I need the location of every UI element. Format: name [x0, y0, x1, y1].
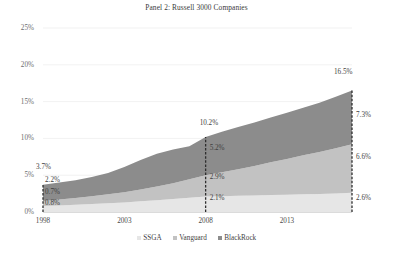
legend-label-ssga: SSGA [143, 234, 161, 242]
y-axis-tick-15: 15% [8, 98, 34, 106]
legend-label-blackrock: BlackRock [224, 234, 256, 242]
legend-item-ssga: SSGA [137, 234, 162, 242]
annotation-end-ssga: 2.6% [356, 194, 371, 202]
x-axis-tick-1998: 1998 [26, 217, 60, 225]
legend-label-vanguard: Vanguard [179, 234, 207, 242]
y-axis-tick-5: 5% [8, 171, 34, 179]
annotation-start-vanguard: 0.7% [45, 188, 60, 196]
annotation-mid-ssga: 2.1% [210, 194, 225, 202]
annotation-start-blackrock: 2.2% [45, 176, 60, 184]
x-axis-tick-2013: 2013 [270, 217, 304, 225]
legend-item-blackrock: BlackRock [218, 234, 256, 242]
chart-legend: SSGA Vanguard BlackRock [0, 234, 393, 242]
annotation-end-blackrock: 7.3% [356, 111, 371, 119]
annotation-end-vanguard: 6.6% [356, 153, 371, 161]
y-axis-tick-0: 0% [8, 208, 34, 216]
y-axis-tick-10: 10% [8, 134, 34, 142]
legend-swatch-blackrock [218, 236, 222, 240]
area-series-group [43, 91, 352, 212]
x-axis-tick-2003: 2003 [107, 217, 141, 225]
annotation-end-total: 16.5% [334, 68, 353, 76]
annotation-mid-total: 10.2% [200, 119, 219, 127]
chart-container: Panel 2: Russell 3000 Companies 25% 20% … [0, 0, 393, 256]
annotation-start-ssga: 0.8% [45, 199, 60, 207]
legend-swatch-vanguard [173, 236, 177, 240]
annotation-mid-vanguard: 2.9% [210, 173, 225, 181]
y-axis-tick-20: 20% [8, 61, 34, 69]
annotation-mid-blackrock: 5.2% [210, 144, 225, 152]
legend-swatch-ssga [137, 236, 141, 240]
x-axis-tick-2008: 2008 [189, 217, 223, 225]
y-axis-tick-25: 25% [8, 24, 34, 32]
legend-item-vanguard: Vanguard [173, 234, 207, 242]
annotation-start-total: 3.7% [36, 163, 51, 171]
